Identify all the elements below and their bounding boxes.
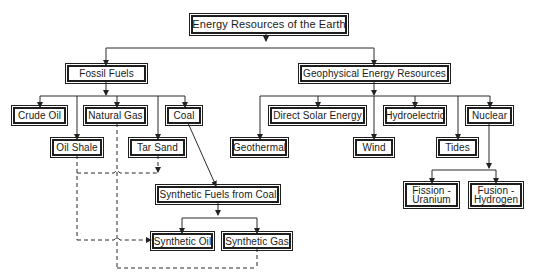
node-nuclear: Nuclear <box>467 107 512 124</box>
node-synthetic-fuels-from-coal: Synthetic Fuels from Coal <box>157 186 279 203</box>
fusion-label-line2: Hydrogen <box>474 195 518 204</box>
node-synthetic-oil: Synthetic Oil <box>152 233 213 249</box>
node-geophysical-energy-resources: Geophysical Energy Resources <box>300 65 449 82</box>
node-fission-uranium: Fission - Uranium <box>405 183 458 207</box>
node-tides: Tides <box>438 139 477 156</box>
node-hydroelectric: Hydroelectric <box>385 107 445 124</box>
node-fossil-fuels: Fossil Fuels <box>67 65 146 82</box>
fission-label-line2: Uranium <box>412 195 451 204</box>
node-geothermal: Geothermal <box>232 139 287 156</box>
node-energy-resources-of-the-earth: Energy Resources of the Earth <box>191 15 347 34</box>
node-coal: Coal <box>167 107 201 124</box>
node-fusion-hydrogen: Fusion - Hydrogen <box>470 183 522 207</box>
node-direct-solar-energy: Direct Solar Energy <box>270 107 365 124</box>
node-synthetic-gas: Synthetic Gas <box>223 233 291 249</box>
node-oil-shale: Oil Shale <box>52 139 102 156</box>
node-crude-oil: Crude Oil <box>13 107 66 124</box>
node-wind: Wind <box>355 139 393 156</box>
node-tar-sand: Tar Sand <box>130 139 185 156</box>
energy-resources-diagram: Energy Resources of the Earth Fossil Fue… <box>0 0 534 280</box>
node-natural-gas: Natural Gas <box>85 107 146 124</box>
